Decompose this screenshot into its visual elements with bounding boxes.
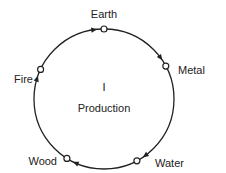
arrow-to-earth-icon [91,28,97,33]
cycle-title: Production [78,102,131,114]
node-label-earth: Earth [91,8,117,20]
node-water [134,158,140,164]
node-label-fire: Fire [14,73,33,85]
node-label-metal: Metal [178,64,205,76]
node-label-water: Water [155,157,184,169]
node-earth [101,26,107,32]
node-label-wood: Wood [28,155,57,167]
node-wood [64,155,70,161]
node-metal [163,63,169,69]
production-cycle-diagram: Earth Metal Water Wood Fire I Production [0,0,226,173]
node-fire [38,66,44,72]
cycle-numeral: I [102,81,105,93]
arrow-to-fire-icon [34,76,39,83]
cycle-circle [34,29,174,169]
